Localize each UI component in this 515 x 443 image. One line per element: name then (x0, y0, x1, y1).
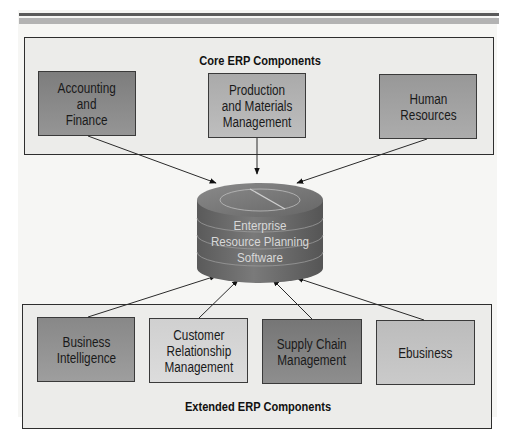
erp-software-label: Enterprise Resource Planning Software (204, 218, 316, 266)
arrow-scm (273, 280, 312, 319)
arrow-accounting (88, 136, 216, 183)
arrow-crm (199, 280, 238, 318)
erp-software-node: Enterprise Resource Planning Software (195, 180, 325, 285)
arrow-hr (297, 139, 427, 183)
